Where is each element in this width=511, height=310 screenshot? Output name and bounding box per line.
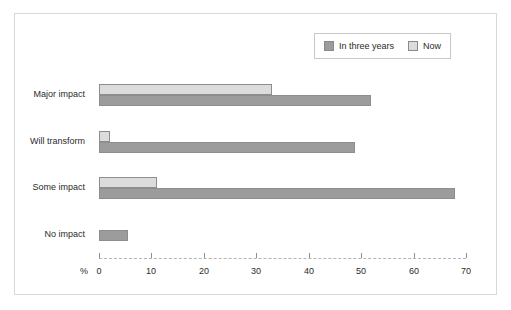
axis-tick-0 <box>99 253 100 258</box>
axis-baseline <box>99 258 466 259</box>
axis-tick-70 <box>466 253 467 258</box>
axis-tick-label-70: 70 <box>454 267 478 276</box>
axis-tick-10 <box>151 253 152 258</box>
legend-entry-now: Now <box>408 41 441 51</box>
legend-swatch-in-three-years-icon <box>324 41 334 51</box>
axis-tick-50 <box>361 253 362 258</box>
axis-tick-label-0: 0 <box>87 267 111 276</box>
axis-tick-label-10: 10 <box>139 267 163 276</box>
axis-tick-label-50: 50 <box>349 267 373 276</box>
chart-frame: Major impact Will transform Some impact … <box>14 13 497 295</box>
legend-entry-in-three-years: In three years <box>324 41 394 51</box>
axis-tick-label-60: 60 <box>402 267 426 276</box>
axis-tick-label-20: 20 <box>192 267 216 276</box>
chart-legend: In three years Now <box>314 33 451 59</box>
axis-tick-60 <box>414 253 415 258</box>
axis-tick-20 <box>204 253 205 258</box>
legend-label-in-three-years: In three years <box>339 42 394 51</box>
axis-tick-label-40: 40 <box>297 267 321 276</box>
legend-label-now: Now <box>423 42 441 51</box>
axis-tick-40 <box>309 253 310 258</box>
axis-tick-30 <box>256 253 257 258</box>
legend-swatch-now-icon <box>408 41 418 51</box>
axis-tick-label-30: 30 <box>244 267 268 276</box>
